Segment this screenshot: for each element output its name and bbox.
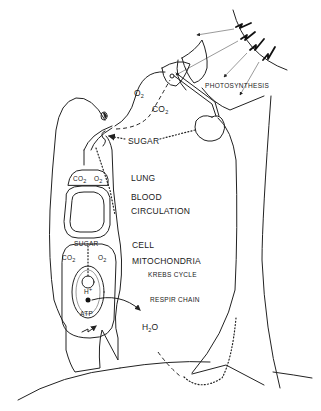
- label-atp: ATP: [80, 310, 93, 317]
- label-cell-co2: CO2: [62, 254, 76, 263]
- label-sugar-transfer: SUGAR: [128, 136, 159, 146]
- label-cell-o2: O2: [98, 254, 107, 263]
- label-blood: BLOOD: [131, 192, 162, 202]
- person-figure: [50, 98, 122, 372]
- sugar-to-mouth-line: [109, 136, 125, 139]
- label-respir-chain: RESPIR CHAIN: [150, 296, 200, 303]
- label-hydrogen-ion: H+: [84, 286, 93, 295]
- water-flow-line: [184, 318, 236, 385]
- label-cell-sugar: SUGAR: [74, 240, 99, 247]
- sugar-flow-line: [160, 130, 195, 139]
- ground-line: [18, 362, 312, 400]
- label-cell: CELL: [132, 240, 154, 250]
- label-mitochondria: MITOCHONDRIA: [132, 256, 201, 266]
- label-h2o: H2O: [142, 322, 159, 333]
- label-co2-air: CO2: [152, 104, 168, 115]
- label-lung-o2: O2: [94, 175, 103, 184]
- label-circulation: CIRCULATION: [131, 206, 190, 216]
- label-photosynthesis: PHOTOSYNTHESIS: [205, 82, 269, 89]
- label-o2-air: O2: [134, 88, 144, 99]
- label-krebs-cycle: KREBS CYCLE: [148, 271, 197, 278]
- label-lung-co2: CO2: [73, 175, 87, 184]
- energy-cycle-diagram: O2 CO2 SUGAR PHOTOSYNTHESIS LUNG BLOOD C…: [0, 0, 321, 411]
- label-lung: LUNG: [131, 173, 155, 183]
- water-to-ground-line: [158, 352, 180, 376]
